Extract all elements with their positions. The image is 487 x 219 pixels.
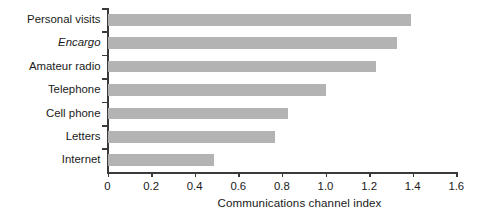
bar: [108, 37, 398, 49]
x-axis-tick: [195, 172, 197, 177]
bar-row: [0, 148, 487, 171]
x-axis-tick-label: 0.6: [218, 180, 258, 193]
x-axis-tick: [326, 172, 328, 177]
x-axis-title: Communications channel index: [0, 196, 487, 209]
bar: [108, 154, 215, 166]
bar: [108, 131, 276, 143]
x-axis-tick-label: 1.2: [349, 180, 389, 193]
bar-row: [0, 8, 487, 31]
bar-row: [0, 78, 487, 101]
bar-row: [0, 55, 487, 78]
x-axis-tick: [151, 172, 153, 177]
x-axis-tick-label: 1.0: [306, 180, 346, 193]
x-axis-tick-label: 1.4: [393, 180, 433, 193]
x-axis-tick-label: 0.4: [175, 180, 215, 193]
x-axis-tick-label: 1.6: [436, 180, 476, 193]
x-axis-tick-label: 0: [88, 180, 128, 193]
x-axis-tick: [456, 172, 458, 177]
bar: [108, 84, 326, 96]
x-axis-tick: [238, 172, 240, 177]
bar: [108, 108, 289, 120]
bar-chart-figure: Personal visitsEncargoAmateur radioTelep…: [0, 0, 487, 219]
x-axis-tick: [108, 172, 110, 177]
x-axis-tick: [282, 172, 284, 177]
bar-row: [0, 31, 487, 54]
bar-row: [0, 102, 487, 125]
x-axis-tick-label: 0.8: [262, 180, 302, 193]
x-axis-tick: [369, 172, 371, 177]
x-axis-title-text: Communications channel index: [218, 196, 382, 209]
bar: [108, 14, 411, 26]
bar: [108, 61, 376, 73]
bar-row: [0, 125, 487, 148]
x-axis-tick-label: 0.2: [131, 180, 171, 193]
x-axis-tick: [413, 172, 415, 177]
